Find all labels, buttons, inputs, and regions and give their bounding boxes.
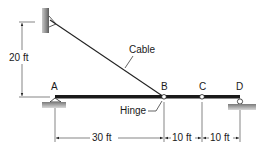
label-a: A bbox=[51, 81, 58, 92]
dimension-ab-label: 30 ft bbox=[92, 132, 112, 143]
pin-support-a bbox=[42, 98, 66, 108]
cable bbox=[50, 20, 164, 97]
cable-leader bbox=[125, 56, 133, 68]
dimension-bc-label: 10 ft bbox=[172, 132, 192, 143]
hinge-b bbox=[162, 95, 167, 100]
hinge-c bbox=[200, 95, 205, 100]
hinge-label: Hinge bbox=[120, 105, 147, 116]
hinge-leader bbox=[148, 101, 162, 111]
label-d: D bbox=[236, 81, 243, 92]
label-c: C bbox=[199, 81, 206, 92]
dimension-vertical-label: 20 ft bbox=[9, 52, 29, 63]
dimension-cd-label: 10 ft bbox=[210, 132, 230, 143]
beam-diagram: Cable A B C D Hinge 20 ft 30 ft bbox=[0, 0, 263, 151]
beam bbox=[55, 95, 240, 99]
label-b: B bbox=[161, 81, 168, 92]
roller-support-d bbox=[228, 99, 256, 110]
wall-anchor bbox=[42, 8, 56, 33]
cable-label: Cable bbox=[129, 44, 156, 55]
